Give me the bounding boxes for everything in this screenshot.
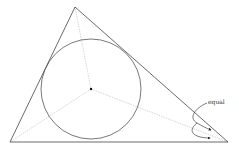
incircle-diagram: equal bbox=[0, 0, 239, 150]
diagram-canvas: equal bbox=[0, 0, 239, 150]
bisector-c bbox=[91, 89, 228, 142]
annotation-arrow-upper bbox=[193, 103, 211, 130]
bisector-b bbox=[10, 89, 91, 142]
annotation-label: equal bbox=[208, 98, 225, 106]
incenter-point bbox=[90, 88, 92, 90]
